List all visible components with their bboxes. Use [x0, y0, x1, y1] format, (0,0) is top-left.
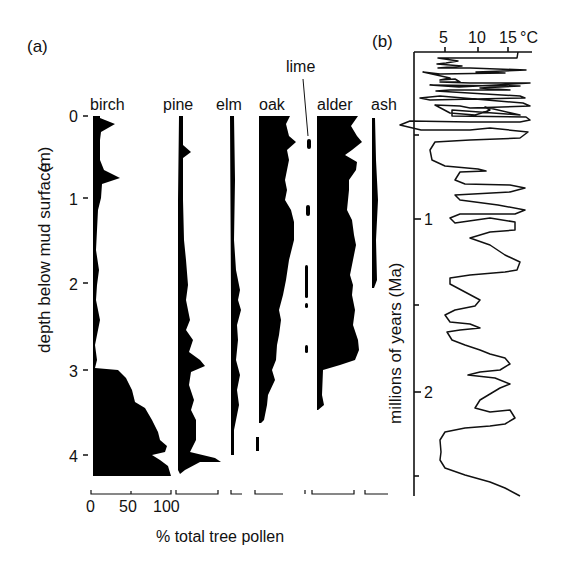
temp-unit: °C: [520, 29, 538, 46]
pollen-curve-birch: [93, 116, 171, 476]
temp-tick-10: 10: [468, 29, 486, 46]
figure: (a) (b) depth below mud surface (m) 0 1 …: [0, 0, 578, 565]
pollen-curve-oak-fragment: [256, 437, 259, 451]
age-tick-2: 2: [424, 384, 433, 401]
panel-b-label: (b): [372, 32, 393, 51]
y-tick-1: 1: [69, 191, 78, 208]
pollen-curve-oak: [259, 116, 296, 423]
pollen-curve-lime: [305, 139, 311, 353]
taxon-label-oak: oak: [259, 96, 286, 113]
taxon-label-ash: ash: [371, 96, 397, 113]
lime-leader-line: [303, 79, 308, 136]
temp-tick-15: 15: [499, 29, 517, 46]
y-tick-3: 3: [69, 363, 78, 380]
y-axis-unit: (m): [35, 147, 54, 172]
taxon-label-pine: pine: [163, 96, 193, 113]
temperature-curve: [400, 52, 530, 496]
pollen-curve-ash: [372, 118, 378, 288]
pollen-curve-alder: [317, 116, 362, 410]
y-tick-4: 4: [69, 448, 78, 465]
taxon-label-lime: lime: [286, 58, 315, 75]
taxon-label-alder: alder: [317, 96, 353, 113]
percentage-scales: [91, 490, 388, 494]
pollen-curve-pine: [178, 116, 221, 474]
y-tick-0: 0: [69, 108, 78, 125]
x-tick-0: 0: [86, 498, 95, 515]
taxon-label-birch: birch: [90, 96, 125, 113]
pollen-curves: [93, 116, 378, 476]
y-tick-2: 2: [69, 276, 78, 293]
y-axis-label: depth below mud surface: [35, 163, 54, 353]
temp-tick-5: 5: [439, 29, 448, 46]
x-tick-100: 100: [153, 498, 180, 515]
panel-a-label: (a): [27, 37, 48, 56]
age-tick-1: 1: [424, 211, 433, 228]
pollen-curve-elm: [230, 116, 241, 455]
taxon-label-elm: elm: [216, 96, 242, 113]
panel-a-y-axis: depth below mud surface (m) 0 1 2 3 4: [35, 108, 88, 465]
panel-b: 5 10 15 °C 1 2 millions of years (Ma): [386, 29, 538, 496]
x-axis-label: % total tree pollen: [156, 528, 284, 545]
age-axis-label: millions of years (Ma): [386, 262, 405, 424]
x-tick-50: 50: [119, 498, 137, 515]
